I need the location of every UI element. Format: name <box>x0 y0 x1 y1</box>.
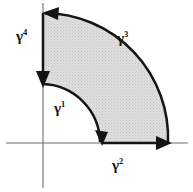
gamma4-base: γ <box>16 28 23 44</box>
gamma1-base: γ <box>54 100 61 116</box>
gamma1-label: γ1 <box>54 100 65 116</box>
figure-container: γ4 γ3 γ1 γ2 <box>0 0 193 192</box>
gamma4-exponent: 4 <box>23 27 27 37</box>
contour-diagram <box>0 0 193 192</box>
gamma2-exponent: 2 <box>119 156 123 166</box>
gamma2-label: γ2 <box>112 157 123 173</box>
gamma3-base: γ <box>117 30 124 46</box>
gamma4-label: γ4 <box>16 28 27 44</box>
gamma1-exponent: 1 <box>61 99 65 109</box>
shaded-region <box>43 13 168 143</box>
gamma3-exponent: 3 <box>124 29 128 39</box>
gamma3-label: γ3 <box>117 30 128 46</box>
gamma2-base: γ <box>112 157 119 173</box>
